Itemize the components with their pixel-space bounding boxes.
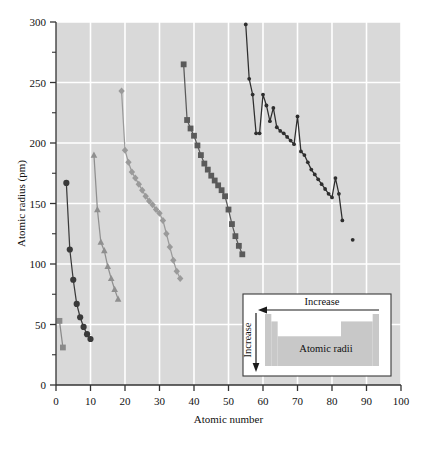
- group-1-column: [265, 314, 271, 366]
- x-tick-label: 0: [53, 395, 59, 407]
- data-point-square: [233, 233, 239, 239]
- periodic-trend-inset: Increase Increase Atomic radii: [242, 294, 391, 376]
- y-tick-label: 200: [30, 137, 47, 149]
- data-point-dot: [268, 119, 272, 123]
- data-point-dot: [296, 114, 300, 118]
- x-tick-label: 30: [154, 395, 166, 407]
- chart-svg: 0501001502002503000102030405060708090100…: [0, 0, 432, 456]
- x-tick-label: 40: [189, 395, 201, 407]
- data-point-dot: [251, 93, 255, 97]
- x-tick-label: 90: [361, 395, 373, 407]
- data-point-circle: [74, 301, 80, 307]
- data-point-dot: [278, 129, 282, 133]
- data-point-circle: [63, 180, 69, 186]
- data-point-dot: [340, 219, 344, 223]
- y-tick-label: 250: [30, 77, 47, 89]
- group-18-column: [373, 314, 379, 366]
- data-point-dot: [282, 131, 286, 135]
- data-point-dot: [265, 104, 269, 108]
- data-point-dot: [258, 131, 262, 135]
- data-point-circle: [77, 314, 83, 320]
- data-point-dot: [306, 160, 310, 164]
- x-tick-label: 100: [393, 395, 410, 407]
- data-point-dot: [292, 142, 296, 146]
- data-point-square: [205, 167, 211, 173]
- data-point-dot: [330, 196, 334, 200]
- data-point-dot: [299, 150, 303, 154]
- data-point-dot: [271, 106, 275, 110]
- data-point-dot: [320, 182, 324, 186]
- data-point-square: [188, 126, 194, 132]
- data-point-dot: [351, 238, 355, 242]
- data-point-square: [195, 143, 201, 149]
- data-point-dot: [313, 173, 317, 177]
- data-point-square: [226, 207, 232, 213]
- vertical-increase-label: Increase: [242, 322, 253, 357]
- data-point-square: [236, 243, 242, 249]
- data-point-dot: [327, 192, 331, 196]
- group-2-column: [271, 321, 277, 366]
- data-point-dot: [285, 135, 289, 139]
- x-tick-label: 70: [292, 395, 304, 407]
- x-tick-label: 10: [85, 395, 97, 407]
- data-point-circle: [81, 324, 87, 330]
- atomic-radius-chart-figure: 0501001502002503000102030405060708090100…: [0, 0, 432, 456]
- x-tick-label: 20: [120, 395, 132, 407]
- data-point-square: [191, 133, 197, 139]
- x-axis-title: Atomic number: [194, 413, 264, 425]
- data-point-dot: [303, 153, 307, 157]
- data-point-dot: [254, 131, 258, 135]
- data-point-dot: [323, 187, 327, 191]
- data-point-dot: [247, 77, 251, 81]
- x-tick-label: 50: [223, 395, 235, 407]
- data-point-square: [201, 161, 207, 167]
- data-point-square: [198, 152, 204, 158]
- atomic-radii-label: Atomic radii: [299, 343, 352, 354]
- data-point-dot: [316, 177, 320, 181]
- data-point-square: [239, 251, 245, 257]
- data-point-dot: [334, 176, 338, 180]
- y-tick-label: 150: [30, 198, 47, 210]
- data-point-square: [184, 117, 190, 123]
- data-point-dot: [309, 168, 313, 172]
- y-tick-label: 300: [30, 16, 47, 28]
- data-point-circle: [87, 336, 93, 342]
- data-point-dot: [261, 93, 265, 97]
- data-point-circle: [70, 277, 76, 283]
- data-point-square: [222, 193, 228, 199]
- x-tick-label: 60: [258, 395, 270, 407]
- data-point-dot: [289, 139, 293, 143]
- horizontal-increase-label: Increase: [305, 296, 340, 307]
- y-tick-label: 0: [41, 379, 47, 391]
- y-tick-label: 50: [35, 319, 47, 331]
- data-point-dot: [337, 192, 341, 196]
- plot-container: 0501001502002503000102030405060708090100…: [0, 0, 432, 456]
- data-point-dot: [244, 23, 248, 27]
- data-point-square: [229, 221, 235, 227]
- series-6: [351, 238, 355, 242]
- x-tick-label: 80: [327, 395, 339, 407]
- data-point-square: [181, 61, 187, 67]
- data-point-square: [219, 187, 225, 193]
- data-point-square: [57, 318, 63, 324]
- data-point-dot: [275, 125, 279, 129]
- data-point-circle: [67, 246, 73, 252]
- data-point-square: [60, 345, 66, 351]
- y-tick-label: 100: [30, 258, 47, 270]
- y-axis-title: Atomic radius (pm): [15, 160, 28, 247]
